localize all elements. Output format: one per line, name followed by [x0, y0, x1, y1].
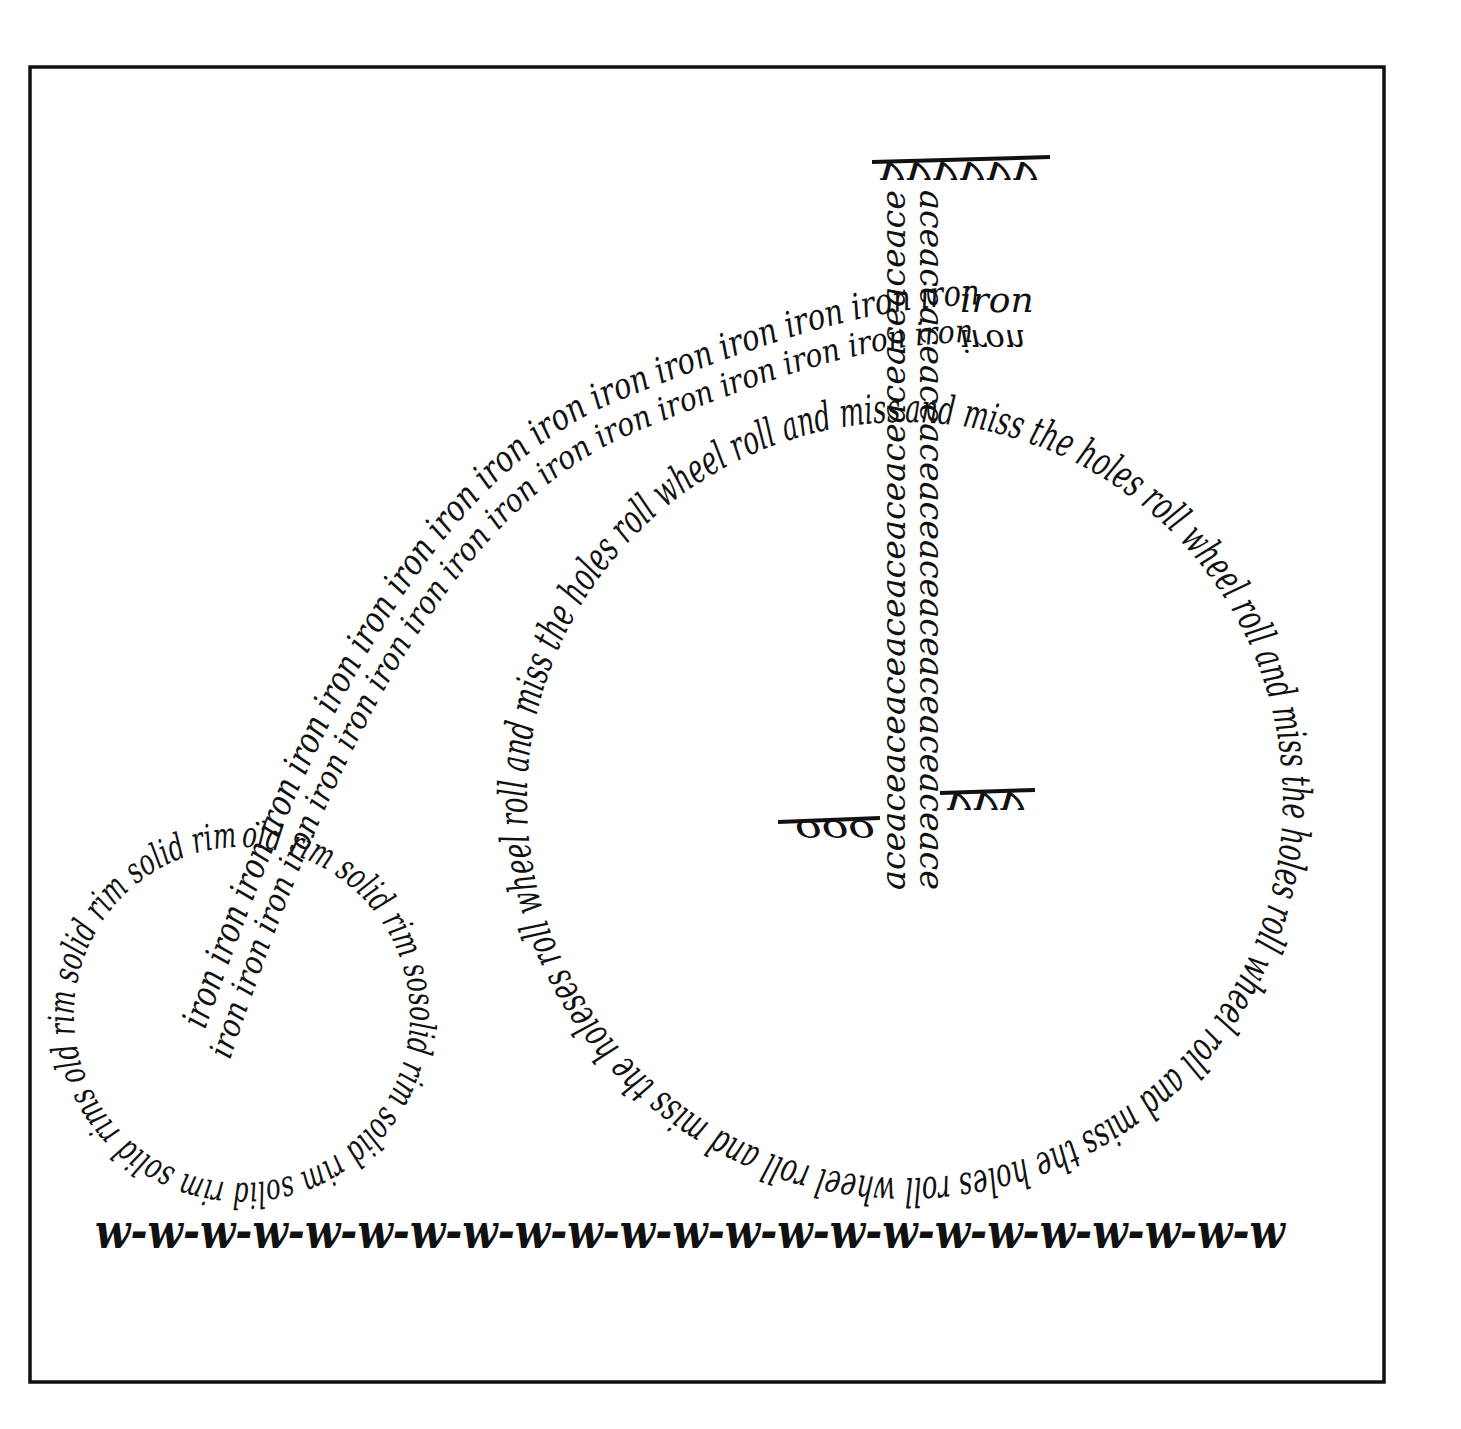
frame-tip-text: iron — [960, 279, 1034, 320]
saddle-left-text: ooo — [795, 812, 875, 852]
calligram-artwork: and miss the holes roll wheel roll and m… — [0, 0, 1461, 1429]
handlebar-text: vvvvvv — [878, 154, 1038, 195]
post-left-text: aceaceaceaceaceaceaceaceaceaceaceace — [873, 190, 913, 890]
frame-tip-text-flipped: iron — [960, 322, 1025, 360]
saddle-right-text: vvv — [945, 784, 1025, 824]
ground-text: w-w-w-w-w-w-w-w-w-w-w-w-w-w-w-w-w-w-w-w-… — [95, 1203, 1286, 1259]
frame-upper-text: iron iron iron iron iron iron iron iron … — [174, 271, 981, 1032]
